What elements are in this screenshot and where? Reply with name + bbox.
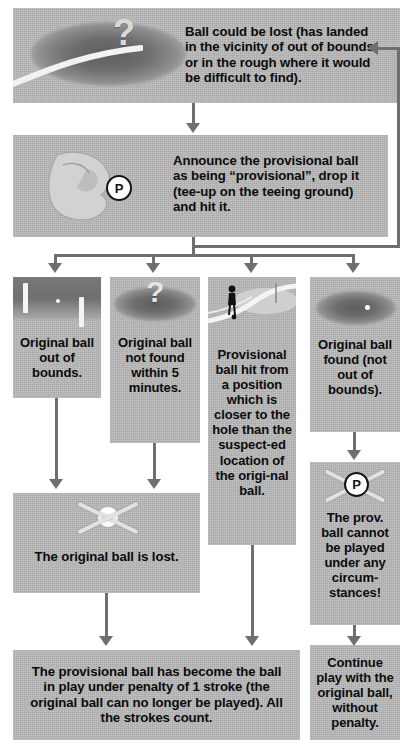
node-provisional-in-play: The provisional ball has become the ball…: [13, 650, 300, 740]
rough-grass-icon: [31, 22, 186, 86]
connector-found-to-cannot: [353, 432, 356, 452]
arrowhead-cannot-to-continue: [347, 636, 361, 646]
out-of-bounds-stake-left: [23, 283, 28, 313]
node-original-lost: The original ball is lost.: [13, 493, 200, 593]
node-original-found: Original ball found (not out of bounds).: [310, 277, 400, 432]
question-mark-icon: ?: [113, 12, 135, 54]
node-continue-with-original: Continue play with the original ball, wi…: [310, 645, 400, 740]
node-text: Original ball not found within 5 minutes…: [115, 335, 195, 395]
node-text: The original ball is lost.: [23, 549, 190, 564]
node-text: Continue play with the original ball, wi…: [315, 655, 395, 730]
node-text: The prov. ball cannot be played under an…: [314, 510, 396, 600]
out-of-bounds-stake-right: [79, 297, 84, 327]
node-ball-could-be-lost: ? Ball could be lost (has landed in the …: [13, 8, 400, 103]
node-prov-cannot-be-played: P The prov. ball cannot be played under …: [310, 462, 400, 625]
fanout-bus: [54, 254, 355, 257]
connector-lost-to-inplay: [105, 593, 108, 638]
arrowhead-found-to-cannot: [347, 450, 361, 460]
arrowhead-to-original-found: [346, 263, 360, 273]
loopback-right-segment: [397, 47, 400, 248]
node-text: Provisional ball hit from a position whi…: [212, 347, 292, 498]
arrowhead-closer-to-inplay: [245, 636, 259, 646]
node-text: Original ball found (not out of bounds).: [315, 337, 395, 397]
golf-ball-icon: [56, 299, 60, 303]
node-text: The provisional ball has become the ball…: [25, 664, 288, 725]
provisional-ball-badge: P: [106, 175, 132, 201]
arrowhead-to-out-of-bounds: [48, 263, 62, 273]
question-mark-icon: ?: [146, 277, 164, 309]
arrowhead-to-not-found: [146, 263, 160, 273]
flowchart-canvas: ? Ball could be lost (has landed in the …: [0, 0, 411, 751]
node-out-of-bounds: Original ball out of bounds.: [13, 277, 101, 398]
arrowhead-to-provisional-closer: [244, 263, 258, 273]
loopback-top-segment: [378, 47, 400, 50]
ball-in-rough-icon: [316, 291, 396, 325]
connector-oob-to-lost: [55, 398, 58, 481]
arrowhead-oob-to-lost: [49, 479, 63, 489]
ball-crossed-out-icon: [75, 499, 141, 537]
golf-ball-icon: [365, 305, 370, 310]
arrowhead-loopback: [368, 41, 378, 55]
arrowhead-notfound-to-lost: [147, 479, 161, 489]
connector-1-to-2: [192, 103, 195, 125]
arrowhead-1-to-2: [186, 123, 200, 133]
node-text: Original ball out of bounds.: [19, 335, 95, 380]
node-text: Ball could be lost (has landed in the vi…: [185, 24, 382, 85]
connector-closer-to-inplay: [251, 545, 254, 638]
golfer-near-green-icon: [208, 277, 296, 343]
node-announce-provisional: P Announce the provisional ball as being…: [13, 135, 388, 237]
provisional-ball-badge: P: [344, 472, 369, 497]
node-provisional-closer: Provisional ball hit from a position whi…: [208, 277, 296, 545]
loopback-bottom-segment: [192, 245, 400, 248]
node-not-found: ? Original ball not found within 5 minut…: [110, 277, 200, 443]
arrowhead-lost-to-inplay: [99, 636, 113, 646]
connector-notfound-to-lost: [153, 443, 156, 481]
node-text: Announce the provisional ball as being “…: [173, 153, 368, 214]
